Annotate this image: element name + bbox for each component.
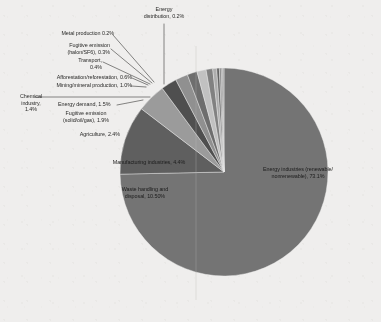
leader-line-energy-demand — [117, 100, 143, 105]
label-fugitive-emission-halon: Fugitive emission (halon/SF6), 0.3% — [18, 42, 110, 55]
label-transport: Transport, 0.4% — [30, 57, 102, 70]
pie-chart-figure: Energy distribution, 0.2% Metal producti… — [0, 0, 381, 322]
label-energy-demand: Energy demand, 1.5% — [58, 101, 120, 108]
label-agriculture: Agriculture, 2.4% — [28, 131, 120, 138]
label-waste-handling: Waste handling and disposal, 10.50% — [102, 186, 188, 199]
label-fugitive-emission-solid: Fugitive emission (solid/oil/gas), 1.9% — [44, 110, 128, 123]
label-afforestation: Afforestation/reforestation, 0.6% — [12, 74, 132, 81]
label-metal-production: Metal production 0.2% — [18, 30, 114, 37]
label-energy-distribution: Energy distribution, 0.2% — [128, 6, 200, 19]
leader-line-transport — [103, 62, 150, 84]
label-energy-industries: Energy industries (renewable/ nonrenewab… — [243, 166, 353, 179]
label-manufacturing-industries: Manufacturing industries, 4.4% — [94, 159, 204, 166]
leader-line-mining — [131, 86, 146, 87]
label-mining-mineral-production: Mining/mineral production, 1.0% — [16, 82, 132, 89]
